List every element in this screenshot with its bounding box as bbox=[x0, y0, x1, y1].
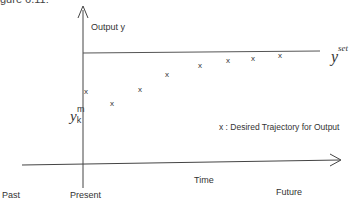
diagram-canvas bbox=[0, 0, 353, 204]
future-label: Future bbox=[276, 187, 302, 197]
past-label: Past bbox=[2, 190, 20, 200]
setpoint-line bbox=[83, 51, 320, 53]
setpoint-label: yset bbox=[331, 48, 348, 66]
time-axis-label: Time bbox=[194, 175, 214, 185]
trajectory-marker: x bbox=[138, 86, 142, 94]
present-label: Present bbox=[70, 190, 101, 200]
trajectory-marker: x bbox=[165, 71, 169, 79]
trajectory-marker: x bbox=[226, 57, 230, 65]
trajectory-marker: x bbox=[110, 100, 114, 108]
legend-text: x : Desired Trajectory for Output bbox=[219, 122, 339, 132]
time-axis bbox=[22, 160, 340, 165]
trajectory-marker: x bbox=[251, 55, 255, 63]
trajectory-marker: x bbox=[84, 88, 88, 96]
trajectory-marker: x bbox=[278, 52, 282, 60]
current-output-label: m yk bbox=[70, 108, 81, 125]
trajectory-marker: x bbox=[198, 62, 202, 70]
y-axis-label: Output y bbox=[91, 22, 125, 32]
